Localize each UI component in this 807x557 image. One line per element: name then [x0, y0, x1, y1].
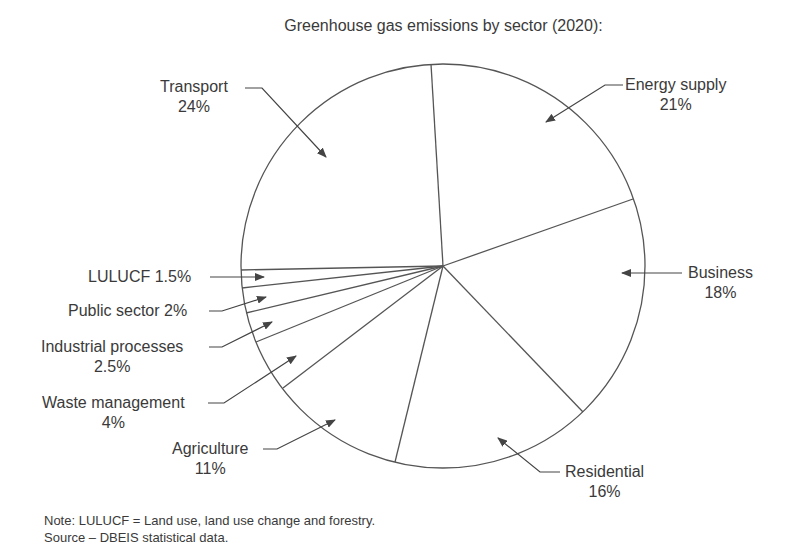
boundary-transport-energy [431, 64, 443, 266]
leader-residential [498, 438, 560, 472]
boundary-business-residential [443, 266, 583, 412]
boundary-residential-agriculture [395, 266, 443, 462]
leader-waste [208, 356, 296, 403]
label-industrial-processes: Industrial processes 2.5% [41, 337, 183, 377]
leader-industrial [209, 322, 272, 347]
boundary-energy-business [443, 199, 633, 266]
leader-transport [245, 88, 326, 157]
chart-title: Greenhouse gas emissions by sector (2020… [0, 17, 807, 35]
leader-public [209, 297, 266, 311]
boundary-agriculture-waste [283, 266, 443, 388]
label-energy-supply: Energy supply 21% [625, 75, 726, 115]
label-residential: Residential 16% [565, 462, 644, 502]
footnote: Note: LULUCF = Land use, land use change… [44, 512, 375, 529]
source-note: Source – DBEIS statistical data. [44, 529, 228, 546]
label-agriculture: Agriculture 11% [172, 439, 248, 479]
label-transport: Transport 24% [160, 77, 228, 117]
leader-energy [546, 85, 623, 122]
label-lulucf: LULUCF 1.5% [88, 267, 191, 287]
label-public-sector: Public sector 2% [68, 301, 187, 321]
label-waste-management: Waste management 4% [42, 393, 185, 433]
leader-agriculture [263, 420, 335, 449]
label-business: Business 18% [688, 263, 753, 303]
